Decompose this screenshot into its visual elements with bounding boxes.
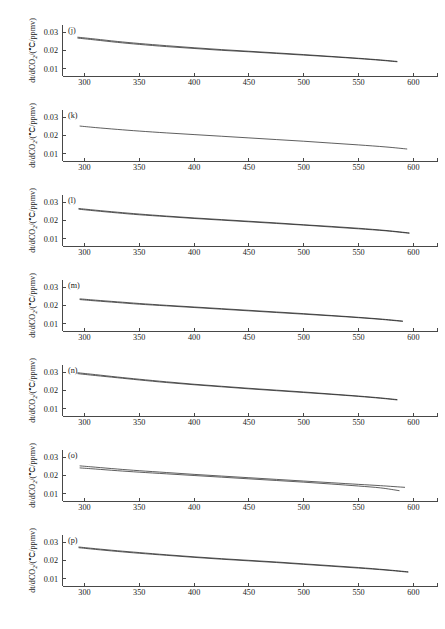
- x-tick-label: 600: [407, 163, 419, 170]
- panel-label: (o): [68, 451, 78, 460]
- y-tick-label: 0.01: [44, 490, 58, 499]
- y-axis-title: dt/dCO2/(℃/ppmv): [28, 358, 38, 423]
- x-tick-label: 350: [133, 248, 145, 255]
- x-tick-label: 550: [352, 248, 364, 255]
- data-curve: [78, 38, 397, 62]
- svg-text:dt/dCO2/(℃/ppmv): dt/dCO2/(℃/ppmv): [28, 188, 38, 253]
- axis-spines: [63, 25, 438, 76]
- x-tick-label: 300: [78, 78, 90, 85]
- axis-spines: [63, 110, 438, 161]
- y-axis-title: dt/dCO2/(℃/ppmv): [28, 103, 38, 168]
- y-tick-label: 0.02: [44, 216, 58, 225]
- x-tick-label: 500: [298, 588, 310, 595]
- svg-text:dt/dCO2/(℃/ppmv): dt/dCO2/(℃/ppmv): [28, 443, 38, 508]
- x-tick-label: 300: [78, 418, 90, 425]
- y-tick-label: 0.01: [44, 235, 58, 244]
- y-tick-label: 0.03: [44, 113, 58, 122]
- x-tick-label: 500: [298, 503, 310, 510]
- panel-plot-area: 3003504004505005506000.010.020.03dt/dCO2…: [0, 255, 445, 340]
- y-tick-label: 0.03: [44, 28, 58, 37]
- y-tick-label: 0.01: [44, 150, 58, 159]
- svg-text:dt/dCO2/(℃/ppmv): dt/dCO2/(℃/ppmv): [28, 358, 38, 423]
- x-tick-label: 550: [352, 333, 364, 340]
- y-tick-label: 0.01: [44, 405, 58, 414]
- panel-plot-area: 3003504004505005506000.010.020.03dt/dCO2…: [0, 0, 445, 85]
- y-tick-label: 0.03: [44, 198, 58, 207]
- axis-spines: [63, 365, 438, 416]
- x-tick-label: 500: [298, 78, 310, 85]
- x-tick-label: 600: [407, 418, 419, 425]
- x-tick-label: 600: [407, 333, 419, 340]
- chart-panel: 3003504004505005506000.010.020.03dt/dCO2…: [0, 255, 445, 340]
- x-tick-label: 600: [407, 78, 419, 85]
- panel-label: (j): [68, 26, 76, 35]
- chart-panel: 3003504004505005506000.010.020.03dt/dCO2…: [0, 425, 445, 510]
- x-tick-label: 600: [407, 248, 419, 255]
- x-tick-label: 450: [243, 333, 255, 340]
- chart-panel: 3003504004505005506000.010.020.03dt/dCO2…: [0, 85, 445, 170]
- figure-multipanel-co2-sensitivity: 3003504004505005506000.010.020.03dt/dCO2…: [0, 0, 445, 629]
- x-tick-label: 500: [298, 418, 310, 425]
- x-tick-label: 450: [243, 503, 255, 510]
- y-axis-title: dt/dCO2/(℃/ppmv): [28, 443, 38, 508]
- x-tick-label: 350: [133, 418, 145, 425]
- x-tick-label: 550: [352, 588, 364, 595]
- panel-label: (p): [68, 536, 78, 545]
- x-tick-label: 550: [352, 503, 364, 510]
- x-tick-label: 500: [298, 333, 310, 340]
- y-tick-label: 0.03: [44, 453, 58, 462]
- y-tick-label: 0.02: [44, 471, 58, 480]
- panel-label: (m): [68, 281, 80, 290]
- x-tick-label: 350: [133, 503, 145, 510]
- y-tick-label: 0.01: [44, 65, 58, 74]
- y-tick-label: 0.01: [44, 320, 58, 329]
- x-tick-label: 450: [243, 588, 255, 595]
- panel-plot-area: 3003504004505005506000.010.020.03dt/dCO2…: [0, 170, 445, 255]
- svg-text:dt/dCO2/(℃/ppmv): dt/dCO2/(℃/ppmv): [28, 273, 38, 338]
- panel-label: (l): [68, 196, 76, 205]
- x-tick-label: 450: [243, 78, 255, 85]
- chart-panel: 3003504004505005506000.010.020.03dt/dCO2…: [0, 510, 445, 595]
- panel-plot-area: 3003504004505005506000.010.020.03dt/dCO2…: [0, 85, 445, 170]
- x-tick-label: 500: [298, 163, 310, 170]
- x-tick-label: 450: [243, 418, 255, 425]
- y-axis-title: dt/dCO2/(℃/ppmv): [28, 18, 38, 83]
- data-curve: [80, 126, 407, 149]
- y-tick-label: 0.02: [44, 556, 58, 565]
- y-tick-label: 0.02: [44, 131, 58, 140]
- y-tick-label: 0.03: [44, 368, 58, 377]
- y-axis-title: dt/dCO2/(℃/ppmv): [28, 188, 38, 253]
- y-tick-label: 0.01: [44, 575, 58, 584]
- x-tick-label: 400: [188, 78, 200, 85]
- y-axis-title: dt/dCO2/(℃/ppmv): [28, 528, 38, 593]
- x-tick-label: 500: [298, 248, 310, 255]
- x-tick-label: 350: [133, 78, 145, 85]
- data-curve: [80, 468, 399, 491]
- x-tick-label: 600: [407, 588, 419, 595]
- x-tick-label: 400: [188, 588, 200, 595]
- x-tick-label: 550: [352, 418, 364, 425]
- panel-label: (n): [68, 366, 78, 375]
- x-tick-label: 450: [243, 248, 255, 255]
- x-tick-label: 400: [188, 248, 200, 255]
- panel-plot-area: 3003504004505005506000.010.020.03dt/dCO2…: [0, 425, 445, 510]
- panel-plot-area: 3003504004505005506000.010.020.03dt/dCO2…: [0, 340, 445, 425]
- chart-panel: 3003504004505005506000.010.020.03dt/dCO2…: [0, 340, 445, 425]
- svg-text:dt/dCO2/(℃/ppmv): dt/dCO2/(℃/ppmv): [28, 103, 38, 168]
- chart-panel: 3003504004505005506000.010.020.03dt/dCO2…: [0, 170, 445, 255]
- x-tick-label: 300: [78, 248, 90, 255]
- y-axis-title: dt/dCO2/(℃/ppmv): [28, 273, 38, 338]
- x-tick-label: 300: [78, 503, 90, 510]
- x-tick-label: 400: [188, 503, 200, 510]
- axis-spines: [63, 450, 438, 501]
- x-tick-label: 550: [352, 78, 364, 85]
- y-tick-label: 0.02: [44, 386, 58, 395]
- axis-spines: [63, 280, 438, 331]
- x-tick-label: 400: [188, 163, 200, 170]
- x-tick-label: 600: [407, 503, 419, 510]
- y-tick-label: 0.03: [44, 283, 58, 292]
- x-tick-label: 300: [78, 333, 90, 340]
- axis-spines: [63, 195, 438, 246]
- y-tick-label: 0.02: [44, 301, 58, 310]
- panel-plot-area: 3003504004505005506000.010.020.03dt/dCO2…: [0, 510, 445, 595]
